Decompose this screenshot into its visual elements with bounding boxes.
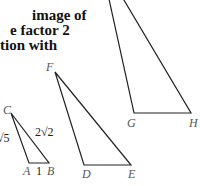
side-label-ab: 1 <box>36 165 42 177</box>
side-label-bc: 2√2 <box>35 126 54 138</box>
triangle-def <box>55 72 131 165</box>
vertex-label-g: G <box>127 117 136 129</box>
vertex-label-e: E <box>128 168 135 180</box>
vertex-label-c: C <box>3 104 11 116</box>
vertex-label-a: A <box>23 165 30 177</box>
vertex-label-b: B <box>47 165 54 177</box>
triangle-gh <box>107 0 191 113</box>
vertex-label-h: H <box>189 117 198 129</box>
side-label-ac: √5 <box>0 132 10 144</box>
vertex-label-f: F <box>46 61 53 73</box>
triangles-figure <box>0 0 200 186</box>
vertex-label-d: D <box>82 168 91 180</box>
